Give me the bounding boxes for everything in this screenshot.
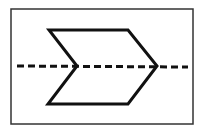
diagram-svg <box>0 0 200 127</box>
diagram-canvas <box>0 0 200 127</box>
line-of-symmetry <box>17 66 188 67</box>
